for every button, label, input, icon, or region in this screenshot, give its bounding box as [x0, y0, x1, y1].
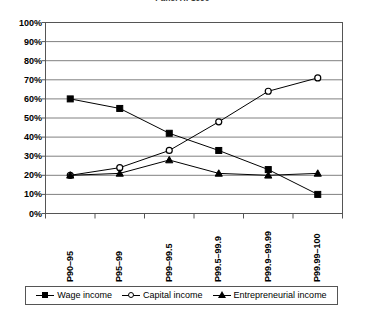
- legend-key-marker: [128, 292, 134, 298]
- data-point-capital-income-3: [216, 119, 222, 125]
- series-layer: [67, 75, 322, 198]
- x-axis-tick-label: P99.5–99.9: [213, 216, 223, 282]
- legend-marker-filled-square-icon: [36, 291, 54, 300]
- legend-marker-filled-triangle-icon: [213, 291, 231, 300]
- legend-item-entrepreneurial-income[interactable]: Entrepreneurial income: [213, 291, 327, 300]
- legend-key-marker: [218, 291, 226, 298]
- legend-label: Entrepreneurial income: [234, 291, 327, 300]
- x-axis-tick-labels: P90–95P95–99P99–99.5P99.5–99.9P99.9–99.9…: [45, 216, 342, 282]
- x-axis-tick-label: P90–95: [65, 216, 75, 282]
- series-line-entrepreneurial-income: [70, 160, 318, 175]
- data-point-wage-income-5: [315, 191, 321, 197]
- series-line-capital-income: [70, 78, 318, 175]
- chart-container: Panel A: 1990 100%90%80%70%60%50%40%30%2…: [0, 0, 365, 313]
- gridlines: [42, 23, 343, 214]
- data-point-wage-income-2: [166, 130, 172, 136]
- legend-marker-open-circle-icon: [122, 291, 140, 300]
- x-axis-tick-label: P99.9–99.99: [263, 216, 273, 282]
- x-axis-tick-label: P99–99.5: [164, 216, 174, 282]
- legend-item-capital-income[interactable]: Capital income: [122, 291, 203, 300]
- series-line-wage-income: [70, 99, 318, 194]
- data-point-entrepreneurial-income-2: [166, 156, 173, 162]
- legend-item-wage-income[interactable]: Wage income: [36, 291, 112, 300]
- x-axis-tick-label: P95–99: [114, 216, 124, 282]
- chart-legend: Wage incomeCapital incomeEntrepreneurial…: [25, 286, 338, 305]
- legend-label: Wage income: [57, 291, 112, 300]
- data-point-wage-income-0: [67, 96, 73, 102]
- data-point-wage-income-3: [216, 147, 222, 153]
- data-point-capital-income-2: [166, 147, 172, 153]
- legend-key-marker: [42, 292, 48, 298]
- data-point-capital-income-4: [265, 88, 271, 94]
- legend-label: Capital income: [143, 291, 203, 300]
- data-point-wage-income-1: [117, 105, 123, 111]
- data-point-capital-income-5: [315, 75, 321, 81]
- x-axis-tick-label: P99.99–100: [312, 216, 322, 282]
